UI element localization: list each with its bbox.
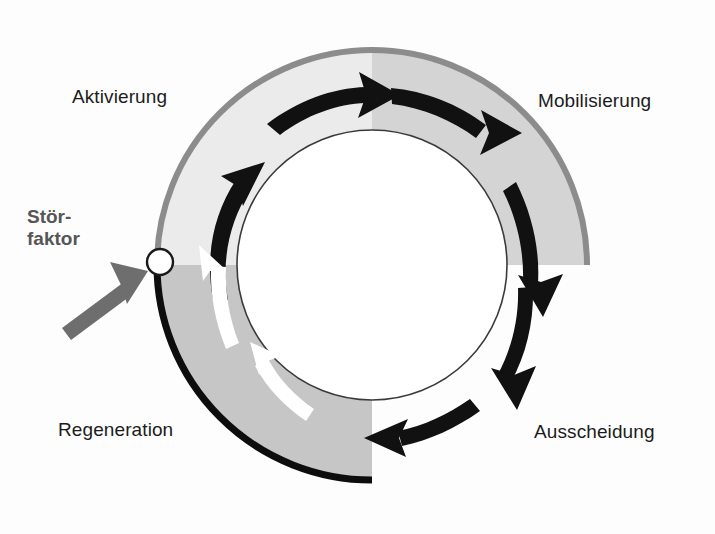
cycle-diagram-canvas bbox=[0, 0, 715, 534]
cycle-diagram-figure: Aktivierung Mobilisierung Ausscheidung R… bbox=[0, 0, 715, 534]
arrow-ausscheidung-2 bbox=[364, 399, 480, 457]
stoerfaktor-label: Stör- faktor bbox=[27, 206, 147, 250]
segment-label-mobilisierung: Mobilisierung bbox=[538, 90, 651, 112]
stoerfaktor-label-line-2: faktor bbox=[27, 228, 147, 250]
inner-circle bbox=[237, 130, 507, 400]
segment-label-regeneration: Regeneration bbox=[58, 419, 173, 441]
segment-label-aktivierung: Aktivierung bbox=[72, 86, 167, 108]
stoerfaktor-label-line-1: Stör- bbox=[27, 206, 147, 228]
stoerfaktor-marker-icon[interactable] bbox=[147, 249, 173, 275]
segment-label-ausscheidung: Ausscheidung bbox=[534, 421, 655, 443]
stoerfaktor-pointer-arrow bbox=[62, 262, 148, 340]
